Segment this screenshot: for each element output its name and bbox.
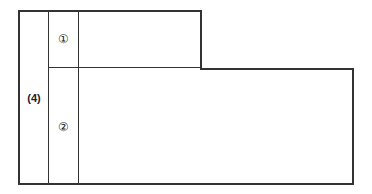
region-4-label: (4) bbox=[20, 91, 48, 105]
top-box-right-edge bbox=[200, 10, 202, 70]
bottom-box-top-edge bbox=[200, 68, 354, 70]
region-1-label: ① bbox=[49, 32, 78, 46]
bottom-edge bbox=[18, 183, 354, 185]
region-2-label: ② bbox=[49, 120, 78, 134]
divider-col-2 bbox=[78, 10, 79, 185]
divider-row bbox=[49, 67, 201, 68]
bottom-box-right-edge bbox=[352, 68, 354, 185]
top-box-top-edge bbox=[18, 10, 202, 12]
